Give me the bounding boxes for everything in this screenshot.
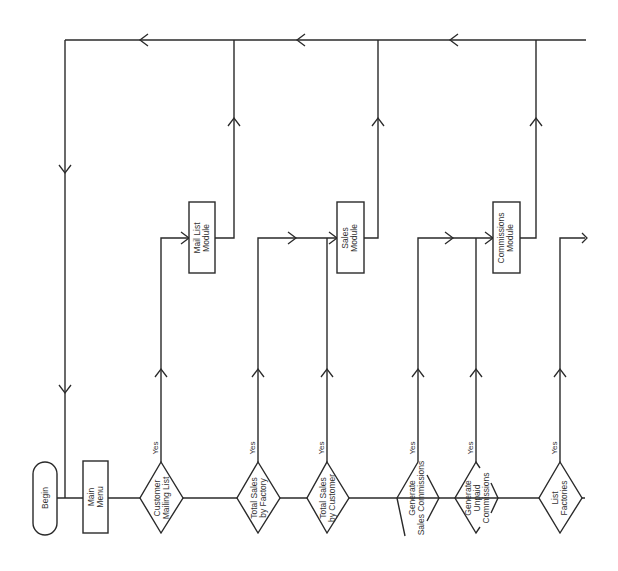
branch-generate-sales-commissions xyxy=(418,238,493,462)
sales-module: Sales Module xyxy=(337,202,364,273)
branch-list-factories xyxy=(560,238,585,462)
decision-label-line2: Factories xyxy=(559,481,569,516)
decision-label-line2: Mailing List xyxy=(161,476,171,519)
commissions-return xyxy=(520,40,536,238)
flowchart: Begin Main Menu Mail List Module Sales M… xyxy=(0,0,618,571)
yes-label: Yes xyxy=(550,441,559,454)
commissions-module: Commissions Module xyxy=(493,202,520,273)
main-menu-label-line2: Menu xyxy=(95,486,105,508)
sales-module-line2: Module xyxy=(349,224,359,252)
decision-label-line2: Sales Commissions xyxy=(416,461,426,536)
decision-total-sales-by-customer: Total Sales by Customer Yes xyxy=(307,441,349,533)
main-menu-box: Main Menu xyxy=(83,461,108,533)
yes-label: Yes xyxy=(466,441,475,454)
yes-label: Yes xyxy=(317,441,326,454)
begin-label: Begin xyxy=(40,487,50,509)
decision-label-line2: by Customer xyxy=(327,474,337,522)
decision-label-line3: Commissions xyxy=(481,472,491,523)
mail-list-module: Mail List Module xyxy=(189,202,215,273)
branch-total-sales-by-factory xyxy=(258,238,337,462)
decision-label-line2: by Factory xyxy=(258,477,268,517)
yes-label: Yes xyxy=(408,441,417,454)
yes-label: Yes xyxy=(151,441,160,454)
commissions-module-line2: Module xyxy=(505,224,515,252)
yes-label: Yes xyxy=(248,441,257,454)
branch-customer-mailing-list xyxy=(161,238,188,462)
mail-list-module-line2: Module xyxy=(201,224,211,252)
begin-terminator: Begin xyxy=(33,462,57,535)
